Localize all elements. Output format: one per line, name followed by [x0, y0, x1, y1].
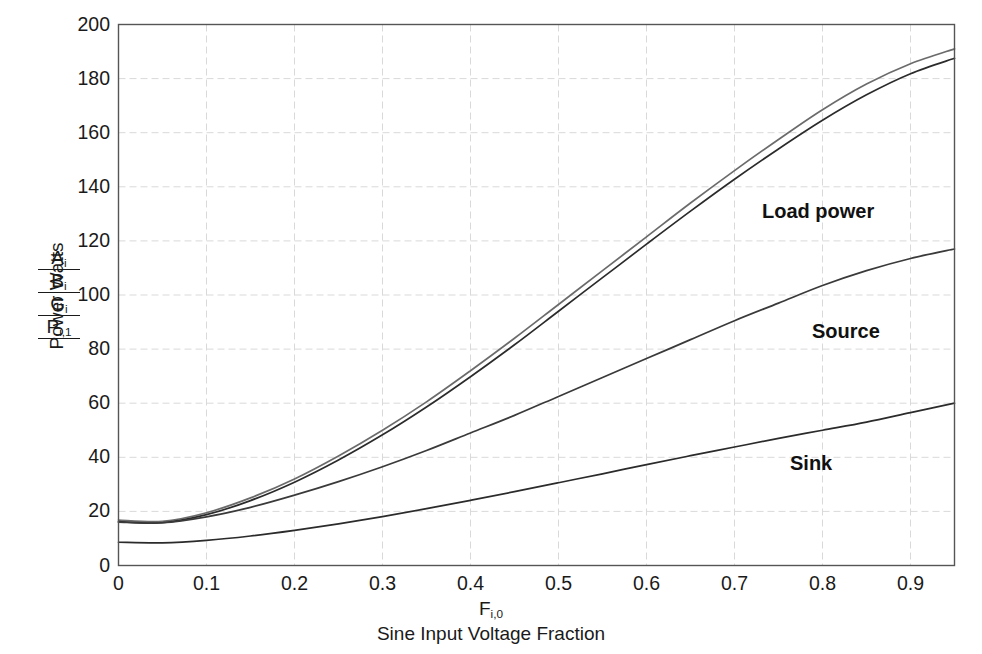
- x-axis-symbol-subscript: i,0: [491, 607, 503, 620]
- annotation-sink: Sink: [790, 452, 832, 475]
- data-curve-3: [119, 249, 955, 523]
- annotation-load-power: Load power: [762, 200, 874, 223]
- x-axis-title: Sine Input Voltage Fraction: [0, 623, 982, 645]
- x-axis-symbol: Fi,0: [0, 598, 982, 620]
- data-curve-1: [119, 49, 955, 522]
- annotation-source: Source: [812, 320, 880, 343]
- chart-figure: Power Watts Ai Bi Gi Pi,1 02040608010012…: [0, 0, 982, 654]
